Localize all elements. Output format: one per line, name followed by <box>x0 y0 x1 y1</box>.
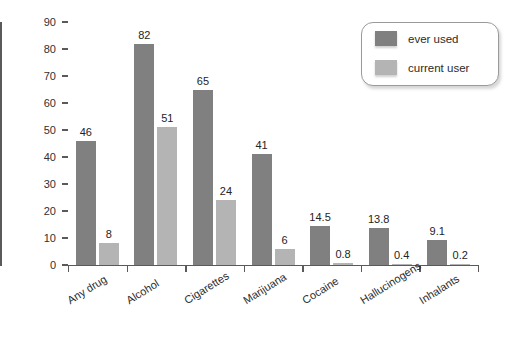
bar-value-label: 9.1 <box>419 225 455 237</box>
bar-alcohol-ever-used <box>134 44 154 265</box>
x-tick-5 <box>361 266 362 272</box>
bar-inhalants-current-user <box>450 264 470 265</box>
x-tick-2 <box>185 266 186 272</box>
legend-swatch-current-user <box>375 60 397 75</box>
category-label-any-drug: Any drug <box>65 273 109 307</box>
bar-value-label: 41 <box>244 139 280 151</box>
y-tick-label-40: 40 <box>30 151 56 163</box>
x-tick-4 <box>302 266 303 272</box>
y-tick-label-90: 90 <box>30 16 56 28</box>
bar-value-label: 24 <box>208 185 244 197</box>
y-tick-label-10: 10 <box>30 232 56 244</box>
y-tick-label-0: 0 <box>30 259 56 271</box>
x-tick-3 <box>244 266 245 272</box>
legend-swatch-ever-used <box>375 31 397 46</box>
bar-value-label: 51 <box>149 112 185 124</box>
y-tick-label-30: 30 <box>30 178 56 190</box>
bar-any-drug-ever-used <box>76 141 96 265</box>
y-tick-label-60: 60 <box>30 97 56 109</box>
bar-cigarettes-ever-used <box>193 90 213 266</box>
bar-chart: Percentage 0102030405060708090 468825165… <box>0 0 509 342</box>
bar-cigarettes-current-user <box>216 200 236 265</box>
bar-any-drug-current-user <box>99 243 119 265</box>
x-tick-7 <box>478 266 479 272</box>
bar-value-label: 13.8 <box>361 213 397 225</box>
y-tick-label-50: 50 <box>30 124 56 136</box>
category-label-cigarettes: Cigarettes <box>182 269 231 306</box>
bar-value-label: 0.4 <box>384 249 420 261</box>
chart-legend: ever used current user <box>361 22 499 86</box>
bar-value-label: 0.2 <box>442 249 478 261</box>
y-tick-label-20: 20 <box>30 205 56 217</box>
legend-item-current-user: current user <box>375 60 469 75</box>
y-tick-label-80: 80 <box>30 43 56 55</box>
legend-label-current-user: current user <box>408 62 469 74</box>
y-tick-label-70: 70 <box>30 70 56 82</box>
legend-item-ever-used: ever used <box>375 31 459 46</box>
category-label-hallucinogens: Hallucinogens <box>358 259 423 306</box>
y-axis-line <box>0 22 2 266</box>
bar-value-label: 65 <box>185 75 221 87</box>
bar-marijuana-ever-used <box>252 154 272 265</box>
x-tick-0 <box>68 266 69 272</box>
legend-label-ever-used: ever used <box>408 33 459 45</box>
bar-value-label: 8 <box>91 228 127 240</box>
x-tick-1 <box>127 266 128 272</box>
bar-value-label: 14.5 <box>302 211 338 223</box>
category-label-inhalants: Inhalants <box>417 272 461 306</box>
bar-value-label: 6 <box>267 234 303 246</box>
category-label-marijuana: Marijuana <box>241 270 288 306</box>
bar-value-label: 82 <box>126 29 162 41</box>
category-label-alcohol: Alcohol <box>124 277 161 306</box>
bar-value-label: 46 <box>68 126 104 138</box>
bar-alcohol-current-user <box>157 127 177 265</box>
category-label-cocaine: Cocaine <box>300 275 341 307</box>
bar-value-label: 0.8 <box>325 248 361 260</box>
bar-cocaine-current-user <box>333 263 353 265</box>
bar-marijuana-current-user <box>275 249 295 265</box>
